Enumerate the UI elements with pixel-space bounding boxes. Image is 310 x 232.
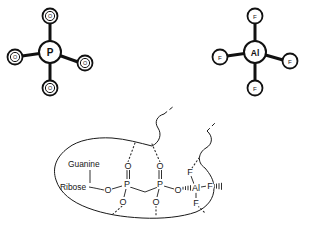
atom-label-f-bottom: F xyxy=(253,85,257,92)
bond-pright-obottom xyxy=(157,189,159,197)
atom-label-al-center: Al xyxy=(251,48,260,58)
chemical-structure-figure: P O O O O Al F xyxy=(0,0,310,232)
bond-oester-al-hashed xyxy=(183,185,191,190)
protein-tail-left-curve xyxy=(152,114,164,146)
bond-pleft-ch2 xyxy=(130,187,145,192)
pocket-atom-labels: O P P O Al O O O O F xyxy=(104,161,214,208)
atom-label-al-pocket: Al xyxy=(192,183,200,193)
atom-label-o-top: O xyxy=(48,13,52,19)
atom-label-o-left: O xyxy=(13,54,17,60)
atom-label-p-right: P xyxy=(157,179,163,189)
protein-tail-left-dash xyxy=(164,106,174,114)
atom-label-o-axial-br: O xyxy=(152,197,159,207)
figure-root: P O O O O Al F xyxy=(0,0,310,232)
atom-label-o-bottom: O xyxy=(48,85,52,91)
bond-pleft-obottom xyxy=(124,189,126,197)
atom-label-p-center: P xyxy=(47,47,54,58)
atom-label-o-ester-right: O xyxy=(174,185,181,195)
bond-oester-pleft xyxy=(112,186,122,189)
atom-label-f-right: F xyxy=(288,58,292,65)
atom-label-o-axial-tr: O xyxy=(156,161,163,171)
hbond-fupper-to-protein xyxy=(192,158,199,168)
atom-label-f-lower: F xyxy=(193,198,199,208)
guanine-label: Guanine xyxy=(68,159,100,169)
protein-tail-right-curve xyxy=(199,131,211,168)
hbond-otopright-to-protein xyxy=(152,144,160,162)
protein-tail-right-dash xyxy=(207,122,216,131)
atom-label-o-axial-bl: O xyxy=(119,197,126,207)
atom-label-f-side: F xyxy=(207,181,213,191)
atom-label-o-ester-left: O xyxy=(104,185,111,195)
binding-pocket-panel: Guanine Ribose xyxy=(55,106,222,218)
bond-fside-hash xyxy=(214,183,222,190)
atom-label-o-axial-tl: O xyxy=(124,161,131,171)
atom-label-o-right: O xyxy=(83,60,87,66)
hbond-otopleft-to-protein xyxy=(128,143,135,162)
bond-pright-oesterright xyxy=(164,186,174,189)
ribose-leader-line xyxy=(89,187,104,190)
ribose-label: Ribose xyxy=(60,182,86,192)
atom-label-f-upper: F xyxy=(187,167,193,177)
atom-label-f-top: F xyxy=(253,13,257,20)
phosphate-group-panel: P O O O O xyxy=(8,9,93,96)
aluminium-fluoride-group-panel: Al F F F F xyxy=(213,9,298,96)
atom-label-p-left: P xyxy=(124,179,130,189)
pocket-outline xyxy=(55,138,215,218)
atom-label-f-left: F xyxy=(218,54,222,61)
